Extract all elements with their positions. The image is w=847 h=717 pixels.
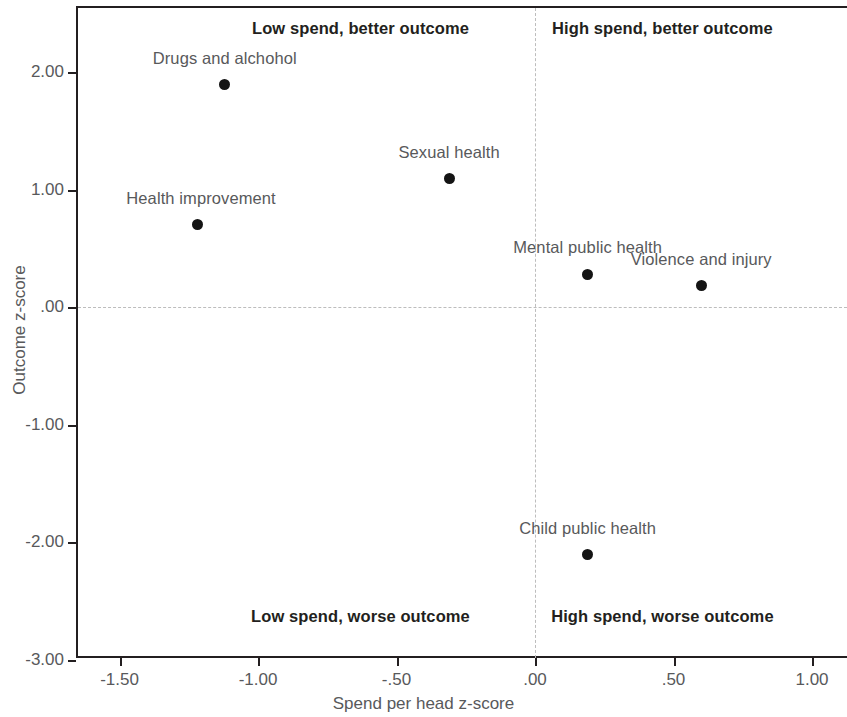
x-axis-title: Spend per head z-score	[0, 694, 847, 714]
quadrant-label: Low spend, better outcome	[252, 19, 469, 38]
quadrant-label: Low spend, worse outcome	[251, 607, 470, 626]
data-point	[192, 219, 203, 230]
data-point	[444, 173, 455, 184]
x-axis-tick-label: .50	[662, 670, 686, 690]
x-axis-tick-label: .00	[523, 670, 547, 690]
y-axis-tick-label: -2.00	[25, 532, 64, 552]
y-axis-tick-label: -1.00	[25, 415, 64, 435]
x-axis-tick-label: -1.50	[100, 670, 139, 690]
y-axis-tick-label: 1.00	[31, 180, 64, 200]
x-axis-tick	[258, 658, 260, 666]
quadrant-label: High spend, better outcome	[552, 19, 773, 38]
y-axis-tick	[68, 660, 76, 662]
y-axis-tick	[68, 542, 76, 544]
x-axis-tick	[674, 658, 676, 666]
x-axis-tick-label: -.50	[382, 670, 411, 690]
y-axis-tick-label: 2.00	[31, 62, 64, 82]
x-axis-tick-label: 1.00	[795, 670, 828, 690]
x-axis-tick	[397, 658, 399, 666]
y-axis-tick	[68, 72, 76, 74]
y-axis-tick	[68, 190, 76, 192]
y-axis-tick	[68, 425, 76, 427]
data-point	[582, 269, 593, 280]
data-point-label: Drugs and alchohol	[153, 49, 297, 68]
zero-outcome-reference-line	[78, 307, 847, 308]
x-axis-tick	[120, 658, 122, 666]
data-point-label: Health improvement	[126, 189, 275, 208]
data-point	[696, 280, 707, 291]
y-axis-tick-label: -3.00	[25, 650, 64, 670]
zero-spend-reference-line	[535, 8, 536, 658]
x-axis-tick	[812, 658, 814, 666]
data-point-label: Sexual health	[398, 143, 499, 162]
x-axis-tick-label: -1.00	[239, 670, 278, 690]
data-point-label: Violence and injury	[631, 250, 772, 269]
y-axis-tick-label: .00	[40, 297, 64, 317]
quadrant-label: High spend, worse outcome	[551, 607, 774, 626]
data-point-label: Child public health	[519, 519, 656, 538]
y-axis-tick	[68, 307, 76, 309]
y-axis-title: Outcome z-score	[10, 220, 30, 440]
plot-area	[76, 6, 847, 658]
scatter-plot-figure: -1.50-1.00-.50.00.501.002.001.00.00-1.00…	[0, 0, 847, 717]
x-axis-tick	[535, 658, 537, 666]
